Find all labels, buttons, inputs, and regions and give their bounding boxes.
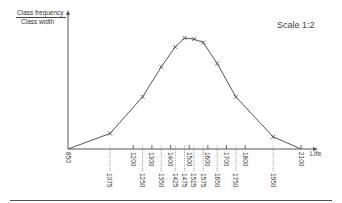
midpoint-label: 1650 bbox=[214, 173, 221, 188]
midpoint-label: 1425 bbox=[172, 173, 179, 188]
boundary-tick-label: 1400 bbox=[167, 152, 174, 167]
boundary-tick-label: 1300 bbox=[148, 152, 155, 167]
boundary-tick-label: 1700 bbox=[223, 152, 230, 167]
data-point-x-marker-icon bbox=[201, 40, 205, 44]
x-axis-label: Life bbox=[310, 150, 321, 157]
midpoint-label: 1475 bbox=[181, 173, 188, 188]
boundary-tick-label: 1800 bbox=[242, 152, 249, 167]
boundary-tick-label: 1500 bbox=[186, 152, 193, 167]
midpoint-label: 1575 bbox=[200, 173, 207, 188]
midpoint-label: 1350 bbox=[158, 173, 165, 188]
data-point-x-marker-icon bbox=[141, 95, 145, 99]
bottom-divider bbox=[10, 200, 332, 201]
scale-annotation: Scale 1:2 bbox=[277, 20, 315, 30]
midpoint-label: 1075 bbox=[106, 173, 113, 188]
boundary-tick-label: 1600 bbox=[204, 152, 211, 167]
frequency-polygon-chart: 8501200130014001500160017001800210010751… bbox=[0, 0, 342, 203]
midpoint-label: 1950 bbox=[270, 173, 277, 188]
midpoint-label: 1750 bbox=[232, 173, 239, 188]
data-point-x-marker-icon bbox=[108, 131, 112, 135]
y-axis-arrow-icon bbox=[66, 10, 70, 15]
boundary-tick-label: 1200 bbox=[130, 152, 137, 167]
tick-label-origin: 850 bbox=[65, 152, 72, 163]
boundary-tick-label: 2100 bbox=[298, 152, 305, 167]
y-axis-label-denominator: Class width bbox=[21, 18, 54, 25]
frequency-polygon-line bbox=[68, 38, 301, 149]
midpoint-label: 1250 bbox=[139, 173, 146, 188]
data-point-x-marker-icon bbox=[173, 45, 177, 49]
data-point-x-marker-icon bbox=[159, 65, 163, 69]
data-point-x-marker-icon bbox=[234, 95, 238, 99]
y-axis-label-numerator: Class frequency bbox=[17, 9, 64, 16]
data-point-x-marker-icon bbox=[215, 62, 219, 66]
data-point-x-marker-icon bbox=[271, 135, 275, 139]
midpoint-label: 1525 bbox=[190, 173, 197, 188]
